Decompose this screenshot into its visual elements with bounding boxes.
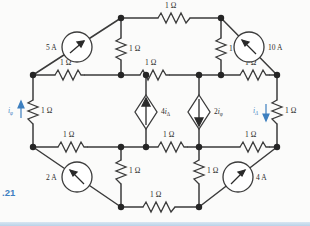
- node-row1-left: [118, 72, 124, 78]
- resistor-r-row2-left: 1 Ω: [58, 130, 88, 152]
- current-label-i-phi: iφ: [8, 101, 24, 118]
- resistor-label: 1 Ω: [285, 106, 297, 115]
- node-lower-vert-left-top: [118, 144, 124, 150]
- resistor-label: 1 Ω: [150, 190, 162, 199]
- node-row1-far-right: [274, 72, 280, 78]
- current-source-10a: 10 A: [234, 32, 283, 62]
- current-label-i-delta: iΔ: [253, 104, 269, 121]
- resistor-r-upper-vert-left: 1 Ω: [116, 38, 141, 60]
- resistor-label: 1 Ω: [145, 58, 157, 67]
- node-row1-far-left: [30, 72, 36, 78]
- resistor-label: 1 Ω: [163, 130, 175, 139]
- dependent-source-label: 2iφ: [214, 107, 223, 117]
- node-dep-right-top: [196, 72, 202, 78]
- resistor-r-right-side: 1 Ω: [272, 100, 297, 124]
- resistor-r-lower-vert-left: 1 Ω: [116, 160, 141, 184]
- page-edge-band: [0, 222, 310, 226]
- node-row2-left: [143, 144, 149, 150]
- node-row2-far-left: [30, 144, 36, 150]
- resistor-label: 1 Ω: [129, 166, 141, 175]
- node-row1-right: [218, 72, 224, 78]
- resistor-label: 1 Ω: [207, 166, 219, 175]
- node-row2-far-right: [274, 144, 280, 150]
- node-top-right: [218, 15, 224, 21]
- current-source-2a: 2 A: [46, 162, 92, 192]
- dependent-source-label: 4iΔ: [161, 107, 171, 117]
- resistor-r-row2-mid: 1 Ω: [158, 130, 188, 152]
- circuit-schematic-svg: 1 Ω 1 Ω 1 Ω 1 Ω 1 Ω 1 Ω 1: [0, 0, 310, 226]
- node-dep-left-top: [143, 72, 149, 78]
- resistor-label: 1 Ω: [129, 44, 141, 53]
- resistor-r-row2-right: 1 Ω: [240, 130, 270, 152]
- current-source-4a: 4 A: [223, 162, 267, 192]
- dependent-source-2iphi: 2iφ: [188, 95, 223, 129]
- current-label-text: iφ: [8, 106, 13, 116]
- node-bottom-left: [118, 204, 124, 210]
- node-bottom-right: [196, 204, 202, 210]
- source-label: 4 A: [256, 173, 267, 182]
- current-source-5a: 5 A: [46, 32, 92, 62]
- dependent-source-4idelta: 4iΔ: [135, 95, 171, 129]
- resistor-label: 1 Ω: [63, 130, 75, 139]
- resistor-label: 1 Ω: [245, 130, 257, 139]
- resistor-r-left-side: 1 Ω: [28, 100, 53, 124]
- circuit-diagram-figure: 1 Ω 1 Ω 1 Ω 1 Ω 1 Ω 1 Ω 1: [0, 0, 310, 226]
- source-label: 2 A: [46, 173, 57, 182]
- source-label: 5 A: [46, 43, 57, 52]
- resistor-r-bottom-mid: 1 Ω: [143, 190, 175, 212]
- resistor-r-lower-vert-right: 1 Ω: [194, 160, 219, 184]
- resistor-r-top-mid: 1 Ω: [158, 1, 190, 23]
- figure-caption: .21: [2, 187, 16, 198]
- resistor-label: 1 Ω: [165, 1, 177, 10]
- resistor-label: 1 Ω: [41, 106, 53, 115]
- current-label-text: iΔ: [253, 106, 258, 116]
- node-top-left: [118, 15, 124, 21]
- node-row2-right: [196, 144, 202, 150]
- source-label: 10 A: [268, 43, 283, 52]
